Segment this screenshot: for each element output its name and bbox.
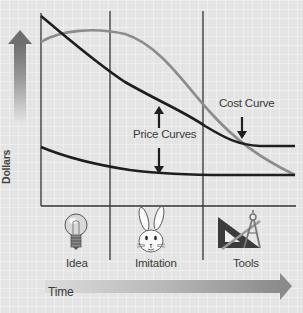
- cost-curve-label: Cost Curve: [219, 97, 275, 109]
- y-axis-label: Dollars: [0, 150, 12, 184]
- price-curves-arrows: [154, 106, 164, 174]
- rabbit-icon: [137, 205, 166, 252]
- time-arrow-icon: [45, 273, 292, 300]
- stage-label-idea: Idea: [66, 257, 88, 269]
- x-axis-label: Time: [48, 285, 73, 299]
- upper-price-curve: [41, 16, 295, 146]
- lightbulb-icon: [65, 214, 87, 250]
- price-curves-label: Price Curves: [133, 128, 196, 140]
- lower-price-curve: [41, 147, 295, 175]
- cost-curve-arrow: [237, 117, 247, 139]
- stage-label-tools: Tools: [233, 257, 259, 269]
- dollars-arrow-icon: [8, 30, 32, 123]
- drafting-tools-icon: [218, 210, 260, 249]
- stage-label-imitation: Imitation: [135, 257, 177, 269]
